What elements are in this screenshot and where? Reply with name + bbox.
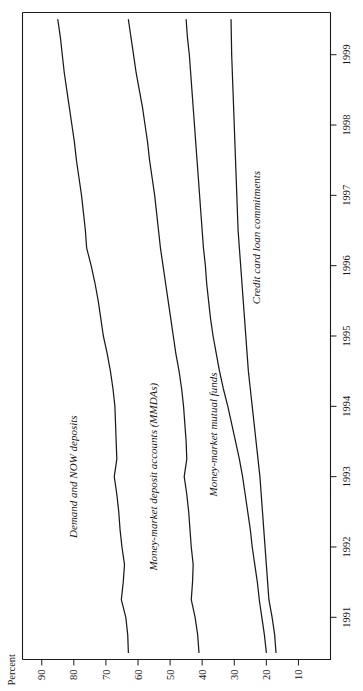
- plot-frame: [22, 12, 330, 659]
- y-tick-label: 40: [196, 669, 207, 680]
- line-chart: 102030405060708090 199119921993199419951…: [0, 0, 363, 691]
- series-line: [128, 19, 199, 652]
- series-line: [186, 19, 266, 652]
- series-labels: Demand and NOW depositsMoney-market depo…: [67, 170, 262, 571]
- x-tick-label: 1997: [340, 184, 351, 205]
- rotated-figure-container: 102030405060708090 199119921993199419951…: [0, 0, 363, 691]
- y-axis-title: Percent: [5, 653, 16, 685]
- y-axis-ticks: 102030405060708090: [36, 659, 304, 680]
- y-tick-label: 30: [228, 669, 239, 680]
- y-tick-label: 10: [293, 669, 304, 680]
- y-tick-label: 70: [100, 669, 111, 680]
- y-tick-label: 50: [164, 669, 175, 680]
- series-line: [231, 19, 276, 652]
- x-tick-label: 1999: [340, 44, 351, 65]
- chart-figure: 102030405060708090 199119921993199419951…: [0, 0, 363, 691]
- y-tick-label: 80: [68, 669, 79, 680]
- series-label: Demand and NOW deposits: [67, 415, 79, 539]
- series-label: Money-market mutual funds: [206, 372, 218, 497]
- x-tick-label: 1994: [340, 395, 351, 417]
- y-tick-label: 90: [36, 669, 47, 680]
- y-tick-label: 20: [260, 669, 271, 680]
- x-tick-label: 1998: [340, 114, 351, 135]
- series-label: Money-market deposit accounts (MMDAs): [147, 382, 160, 571]
- series-label: Credit card loan commitments: [249, 170, 261, 303]
- x-tick-label: 1995: [340, 325, 351, 346]
- x-tick-label: 1996: [340, 255, 351, 276]
- x-tick-label: 1991: [340, 606, 351, 627]
- y-tick-label: 60: [132, 669, 143, 680]
- series-lines: [57, 19, 275, 652]
- x-tick-label: 1993: [340, 466, 351, 487]
- x-tick-label: 1992: [340, 536, 351, 557]
- x-axis-ticks: 199119921993199419951996199719981999: [330, 44, 351, 628]
- series-line: [57, 19, 128, 652]
